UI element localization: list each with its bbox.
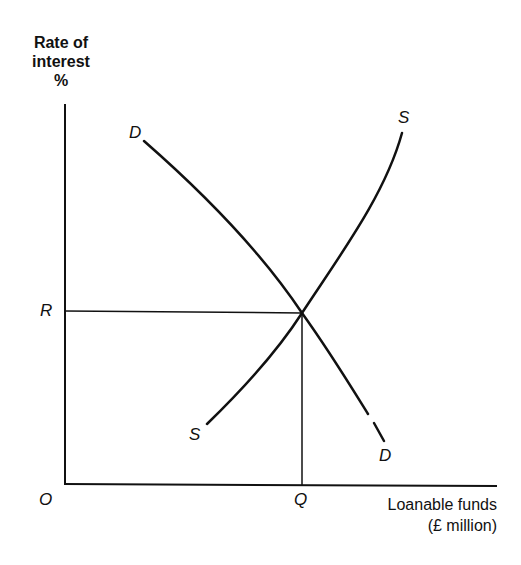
y-axis-title: Rate of interest % [31, 33, 91, 90]
y-axis-title-line-3: % [31, 71, 91, 90]
equilibrium-rate-label: R [40, 301, 52, 321]
loanable-funds-diagram: Rate of interest % R O Q D D S S Loanabl… [0, 0, 521, 565]
supply-curve-end-label: S [398, 108, 409, 128]
supply-curve [207, 133, 402, 424]
demand-curve-end-label: D [379, 446, 391, 466]
x-axis-title-line-2: (£ million) [388, 515, 497, 536]
x-axis-title: Loanable funds (£ million) [388, 494, 497, 536]
equilibrium-quantity-label: Q [294, 490, 307, 510]
demand-curve-dashed-tail [374, 423, 384, 441]
supply-curve-start-label: S [189, 425, 200, 445]
demand-curve-start-label: D [129, 123, 141, 143]
y-axis-title-line-2: interest [31, 52, 91, 71]
x-axis-line [64, 484, 497, 486]
y-axis-title-line-1: Rate of [31, 33, 91, 52]
equilibrium-rate-guideline [65, 311, 302, 313]
origin-label: O [39, 490, 52, 510]
x-axis-title-line-1: Loanable funds [388, 494, 497, 515]
